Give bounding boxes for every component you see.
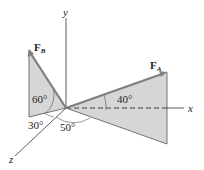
angle-60-label: 60° bbox=[32, 93, 47, 105]
z-axis bbox=[15, 108, 66, 156]
z-axis-label: z bbox=[8, 153, 14, 165]
x-axis-label: x bbox=[187, 102, 193, 114]
angle-30-label: 30° bbox=[28, 119, 43, 131]
arc-30 bbox=[44, 113, 54, 117]
angle-50-label: 50° bbox=[60, 121, 75, 133]
fa-label: FA bbox=[150, 59, 162, 73]
y-axis-label: y bbox=[62, 6, 68, 18]
force-diagram: y x z FB FA 60° 40° 30° 50° bbox=[0, 0, 204, 170]
fb-label: FB bbox=[34, 41, 46, 55]
angle-40-label: 40° bbox=[117, 93, 132, 105]
